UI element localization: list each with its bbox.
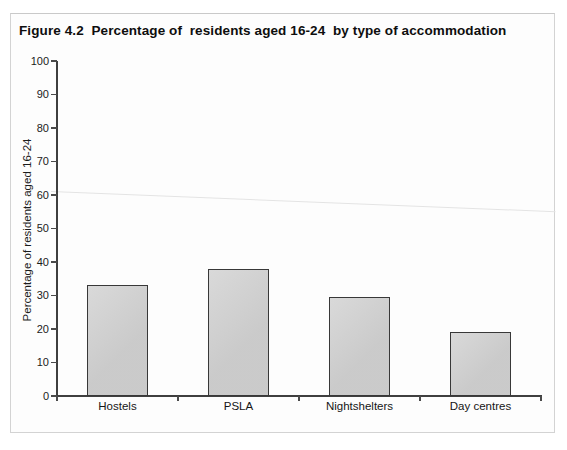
y-tick-label: 10 (16, 356, 49, 368)
x-category-label: PSLA (178, 400, 299, 412)
y-tick-mark (51, 261, 57, 263)
y-tick-mark (51, 194, 57, 196)
y-tick-mark (51, 362, 57, 364)
y-tick-label: 30 (16, 289, 49, 301)
bar-psla (208, 269, 269, 396)
scanned-figure-page: Figure 4.2 Percentage of residents aged … (0, 0, 567, 450)
y-tick-label: 50 (16, 222, 49, 234)
y-tick-mark (51, 295, 57, 297)
x-category-label: Nightshelters (299, 400, 420, 412)
y-tick-label: 70 (16, 155, 49, 167)
x-category-label: Hostels (57, 400, 178, 412)
y-tick-label: 0 (16, 390, 49, 402)
bar-day-centres (450, 332, 511, 396)
figure-title: Figure 4.2 Percentage of residents aged … (19, 23, 506, 38)
bar-hostels (87, 285, 148, 396)
y-tick-label: 40 (16, 256, 49, 268)
y-tick-label: 20 (16, 323, 49, 335)
y-tick-mark (51, 328, 57, 330)
y-tick-mark (51, 127, 57, 129)
y-tick-mark (51, 60, 57, 62)
x-category-label: Day centres (420, 400, 541, 412)
y-tick-label: 80 (16, 122, 49, 134)
y-tick-mark (51, 228, 57, 230)
y-tick-label: 100 (16, 55, 49, 67)
y-tick-label: 60 (16, 189, 49, 201)
y-tick-mark (51, 94, 57, 96)
y-tick-label: 90 (16, 88, 49, 100)
y-tick-mark (51, 161, 57, 163)
bar-nightshelters (329, 297, 390, 396)
